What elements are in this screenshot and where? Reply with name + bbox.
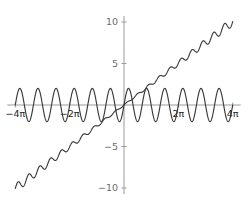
plot-area: 105−5−10−4π−2π2π4π <box>0 0 251 209</box>
chart-figure: 105−5−10−4π−2π2π4π <box>0 0 251 209</box>
y-tick-label: 5 <box>112 58 118 69</box>
x-tick-label: 2π <box>172 108 184 119</box>
x-tick-label: −4π <box>5 108 25 119</box>
x-tick-label: −2π <box>60 108 80 119</box>
x-tick-label: 4π <box>227 108 239 119</box>
y-tick-label: −5 <box>104 141 118 152</box>
y-tick-label: −10 <box>98 182 118 193</box>
y-tick-label: 10 <box>106 16 118 27</box>
